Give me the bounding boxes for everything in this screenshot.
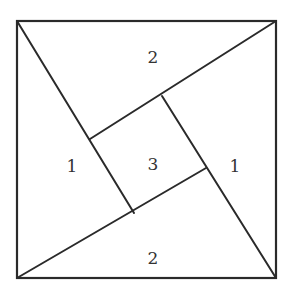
region-right-label: 1	[230, 156, 241, 176]
segment-bottom-right-to-top-inner	[162, 96, 276, 278]
region-center-label: 3	[148, 154, 159, 174]
dissection-lines	[17, 21, 276, 278]
segment-bottom-left-to-right-inner	[17, 168, 206, 278]
segment-top-left-to-bottom-inner	[17, 21, 134, 213]
region-bottom-label: 2	[148, 248, 159, 268]
region-left-label: 1	[67, 156, 78, 176]
segment-top-right-to-left-inner	[90, 21, 276, 139]
region-top-label: 2	[148, 47, 159, 67]
square-dissection-diagram: 2 1 3 1 2	[0, 0, 291, 304]
outer-square	[17, 21, 276, 278]
